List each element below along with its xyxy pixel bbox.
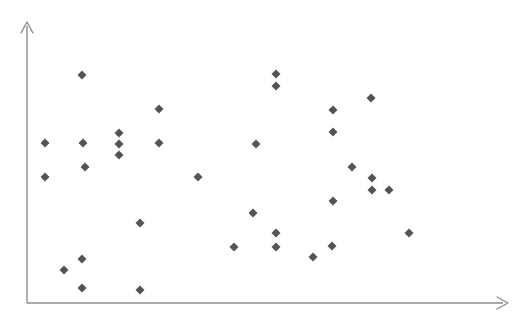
data-point-marker (249, 209, 258, 218)
data-point-marker (252, 140, 261, 149)
data-point-marker (115, 151, 124, 160)
data-point-marker (272, 82, 281, 91)
data-point-marker (60, 266, 69, 275)
data-point-marker (272, 243, 281, 252)
axes (21, 22, 508, 309)
data-point-marker (78, 71, 87, 80)
data-point-marker (230, 243, 239, 252)
data-point-marker (155, 139, 164, 148)
scatter-chart (0, 0, 529, 325)
data-point-marker (41, 173, 50, 182)
data-point-marker (328, 242, 337, 251)
data-point-marker (368, 186, 377, 195)
data-point-marker (136, 219, 145, 228)
data-point-marker (78, 284, 87, 293)
data-point-marker (348, 163, 357, 172)
data-point-marker (272, 229, 281, 238)
data-point-marker (79, 139, 88, 148)
data-point-marker (309, 253, 318, 262)
data-point-marker (78, 255, 87, 264)
data-point-marker (272, 70, 281, 79)
data-point-marker (81, 163, 90, 172)
data-point-marker (155, 105, 164, 114)
data-point-marker (115, 140, 124, 149)
data-point-marker (368, 174, 377, 183)
data-point-marker (367, 94, 376, 103)
data-point-marker (194, 173, 203, 182)
data-point-marker (329, 106, 338, 115)
data-point-marker (41, 139, 50, 148)
data-point-marker (405, 229, 414, 238)
data-point-marker (329, 197, 338, 206)
data-point-marker (329, 128, 338, 137)
data-point-marker (115, 129, 124, 138)
data-point-marker (136, 286, 145, 295)
data-point-marker (385, 186, 394, 195)
data-points-group (41, 70, 414, 295)
plot-area (0, 0, 529, 325)
